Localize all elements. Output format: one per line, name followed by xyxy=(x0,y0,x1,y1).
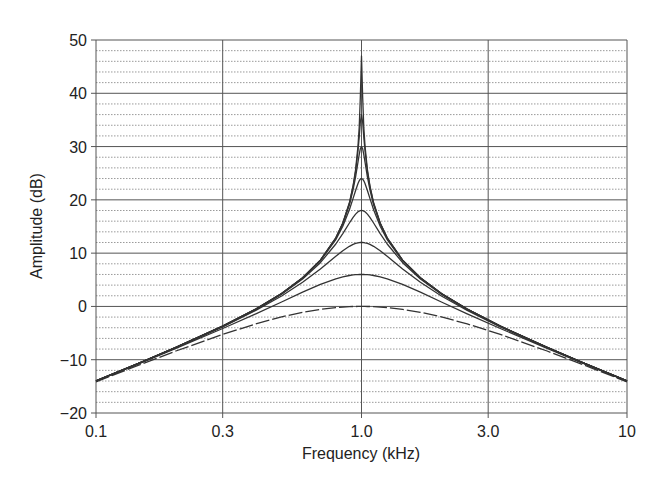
x-tick-label: 1.0 xyxy=(350,423,372,440)
y-tick-label: 10 xyxy=(69,245,87,262)
y-tick-label: 0 xyxy=(78,298,87,315)
y-tick-label: 20 xyxy=(69,192,87,209)
major-gridlines xyxy=(91,40,627,418)
x-tick-label: 10 xyxy=(618,423,636,440)
x-tick-label: 0.3 xyxy=(212,423,234,440)
y-tick-label: 40 xyxy=(69,85,87,102)
x-tick-label: 0.1 xyxy=(85,423,107,440)
y-axis-title: Amplitude (dB) xyxy=(28,173,45,279)
y-axis-tick-labels: 50403020100−10−20 xyxy=(60,32,87,422)
x-tick-label: 3.0 xyxy=(477,423,499,440)
x-axis-tick-labels: 0.10.31.03.010 xyxy=(85,423,636,440)
y-tick-label: −10 xyxy=(60,352,87,369)
y-tick-label: 50 xyxy=(69,32,87,49)
y-tick-label: 30 xyxy=(69,139,87,156)
x-axis-title: Frequency (kHz) xyxy=(302,445,420,462)
y-tick-label: −20 xyxy=(60,405,87,422)
amplitude-frequency-chart: 50403020100−10−20 0.10.31.03.010 Frequen… xyxy=(0,0,661,486)
